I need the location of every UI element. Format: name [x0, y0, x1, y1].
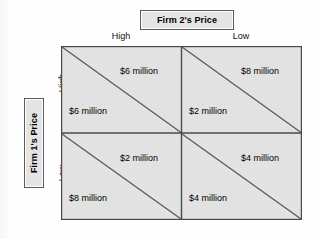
- payoff-matrix: $6 million $6 million $8 million $2 mill…: [61, 46, 302, 220]
- payoff-low-low-lower-left: $4 million: [189, 193, 227, 203]
- payoff-high-high-lower-left: $6 million: [69, 106, 107, 116]
- payoff-low-low-upper-right: $4 million: [241, 153, 279, 163]
- scan-edge-artifact: [0, 0, 12, 239]
- column-label-low: Low: [211, 31, 271, 41]
- column-header-title-box: Firm 2's Price: [140, 10, 234, 30]
- column-label-high: High: [91, 31, 151, 41]
- payoff-high-low-upper-right: $8 million: [241, 66, 279, 76]
- payoff-high-high-upper-right: $6 million: [120, 66, 158, 76]
- row-header-title-box: Firm 1's Price: [24, 98, 44, 188]
- payoff-low-high-lower-left: $8 million: [69, 193, 107, 203]
- payoff-high-low-lower-left: $2 million: [189, 106, 227, 116]
- payoff-low-high-upper-right: $2 million: [120, 153, 158, 163]
- figure-canvas: Firm 2's Price Firm 1's Price High Low H…: [0, 0, 319, 239]
- row-header-title-label: Firm 1's Price: [29, 113, 39, 173]
- column-header-title-label: Firm 2's Price: [157, 15, 217, 25]
